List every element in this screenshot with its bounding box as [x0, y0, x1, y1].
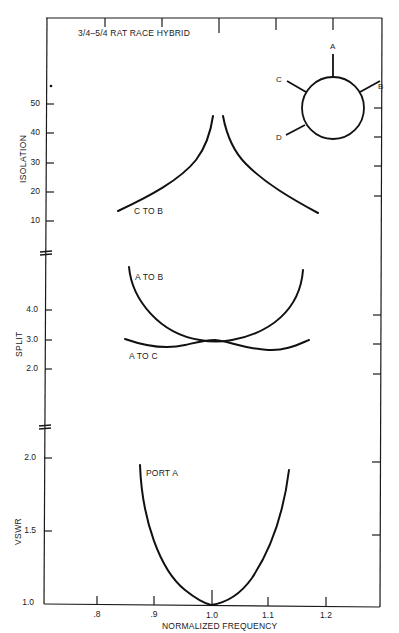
iso-tick-20: 20 — [16, 186, 40, 196]
x-tick-0-9: .9 — [142, 609, 166, 619]
port-label-b: B — [378, 82, 384, 91]
annotation-c-to-b: C TO B — [134, 206, 163, 216]
split-tick-4: 4.0 — [14, 304, 38, 314]
ring-hybrid-diagram — [286, 54, 380, 139]
annotation-a-to-c: A TO C — [129, 351, 158, 361]
left-axis — [44, 18, 47, 604]
x-tick-1-2: 1.2 — [314, 610, 338, 620]
iso-tick-50: 50 — [16, 98, 40, 108]
split-tick-2: 2.0 — [14, 363, 38, 373]
right-axis — [380, 18, 382, 607]
iso-tick-10: 10 — [16, 215, 40, 225]
port-label-a: A — [330, 42, 336, 51]
port-label-d: D — [276, 133, 282, 142]
port-label-c: C — [276, 75, 282, 84]
curve-a-to-c — [125, 339, 309, 350]
iso-tick-40: 40 — [16, 127, 40, 137]
annotation-port-a: PORT A — [146, 468, 178, 478]
x-tick-1-1: 1.1 — [256, 610, 280, 620]
chart-canvas — [0, 0, 399, 633]
annotation-a-to-b: A TO B — [135, 272, 163, 282]
curve-c-to-b-right — [223, 116, 318, 213]
vswr-tick-1-5: 1.5 — [12, 525, 36, 535]
vswr-tick-2: 2.0 — [12, 452, 36, 462]
vswr-tick-1: 1.0 — [10, 597, 34, 607]
x-tick-0-8: .8 — [85, 609, 109, 619]
iso-tick-30: 30 — [16, 157, 40, 167]
curve-c-to-b-left — [118, 116, 213, 211]
stray-dot-mark — [50, 85, 53, 88]
x-tick-1-0: 1.0 — [200, 610, 224, 620]
curve-port-a — [140, 465, 289, 605]
x-axis-label: NORMALIZED FREQUENCY — [162, 621, 277, 631]
chart-title: 3/4–5/4 RAT RACE HYBRID — [78, 28, 190, 38]
split-tick-3: 3.0 — [14, 334, 38, 344]
